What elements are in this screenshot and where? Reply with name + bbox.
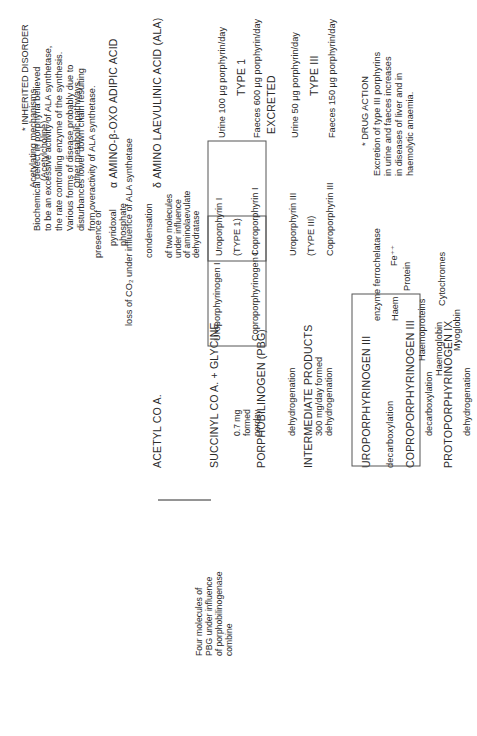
node-acetyl-coa: ACETYL CO A. [151, 394, 163, 468]
inherited-disorder-note: * INHERITED DISORDER Biochemical defect … [20, 24, 97, 231]
step-dehydrogenation: dehydrogenation [462, 368, 472, 436]
drug-line: in diseases of liver and in [394, 73, 404, 176]
node-haemoglobin: Haemoglobin [434, 322, 444, 376]
box-uroporphyrin-iii: Uroporphyrin III [288, 193, 298, 256]
node-haem: Haem [390, 296, 400, 321]
node-excreted: EXCRETED [265, 75, 277, 134]
iron-fe: Fe⁺⁺ [389, 245, 399, 266]
inherited-line: from overactivity of ALA synthetase. [87, 85, 97, 231]
node-type-3: TYPE III [308, 55, 320, 96]
condensation-detail-4: dehydratase [191, 210, 201, 258]
node-amino-oxo-adipic: α AMINO-β-OXO ADIPIC ACID [107, 38, 119, 188]
inherited-line: the rate controlling enzyme of the synth… [54, 52, 64, 231]
four-molecules-line-1: Four molecules of [194, 587, 204, 656]
box-coproporphyrin-iii: Coproporphyrin III [325, 182, 335, 256]
node-protein: Protein [402, 262, 412, 291]
drug-line: haemolytic anaemia. [405, 92, 415, 176]
dehydrogenation-b: dehydrogenation [324, 368, 334, 436]
faeces-type-3: Faeces 150 μg porphyrin/day [327, 18, 337, 138]
inherited-line: disturbances lower down chain resulting [76, 68, 86, 231]
formed-07mg-2: formed [242, 409, 252, 436]
drug-line: in urine and faeces increases [383, 56, 393, 176]
formed-07mg-3: perday [252, 409, 262, 436]
pathway-diagram: ACETYL CO A. SUCCINYL CO A. + GLYCINE PO… [0, 0, 477, 736]
node-succinyl-glycine: SUCCINYL CO A. + GLYCINE [208, 322, 220, 468]
node-type-1: TYPE 1 [235, 59, 247, 96]
node-coproporphyrinogen-i: Coproporphyrinogen I [250, 252, 260, 341]
node-haemoproteins: Haemoproteins [417, 298, 427, 361]
drug-heading: * DRUG ACTION [360, 76, 370, 146]
node-porphobilinogen: PORPHOBILINOGEN (PBG) [255, 329, 267, 468]
box-coproporphyrin-i: Coproporphyrin I [250, 188, 260, 256]
box-type-1-label: (TYPE 1) [232, 218, 242, 256]
node-myoglobin: Myoglobin [452, 309, 462, 351]
pyridoxal-label-1: pyridoxal [108, 209, 118, 246]
enzyme-ferrochelatase: enzyme ferrochelatase [372, 228, 382, 321]
node-ala: δ AMINO LAEVULINIC ACID (ALA) [151, 18, 163, 188]
four-molecules-line-4: combine [224, 623, 234, 656]
four-molecules-line-3: of porphobilinogenase [214, 571, 224, 656]
node-coproporphyrinogen-iii: COPROPORPHYRINOGEN III [404, 320, 416, 468]
drug-action-note: * DRUG ACTION Excretion of type III porp… [360, 52, 415, 176]
four-molecules-line-2: PBG under influence [204, 576, 214, 656]
formed-07mg-1: 0.7 mg [232, 410, 242, 436]
inherited-line: to be an excessive activity of ALA synth… [43, 46, 53, 231]
step-decarboxylation-1: decarboxylation [385, 401, 395, 468]
urine-type-3: Urine 50 μg porphyrin/day [290, 32, 300, 138]
box-uroporphyrin-i: Uroporphyrin I [214, 198, 224, 256]
formed-300mg: 300 mg/day formed [314, 357, 324, 436]
drug-line: Excretion of type III porphyrins [372, 52, 382, 176]
diagram-stage: ACETYL CO A. SUCCINYL CO A. + GLYCINE PO… [0, 0, 477, 736]
step-decarboxylation-2: decarboxylation [424, 372, 434, 436]
inherited-heading: * INHERITED DISORDER [20, 24, 30, 131]
box-type-3-label: (TYPE III) [306, 216, 316, 256]
loss-co2-label: loss of CO₂ under influence of ALA synth… [124, 138, 134, 326]
node-intermediate-products: INTERMEDIATE PRODUCTS [302, 325, 314, 468]
dehydrogenation-a: dehydrogenation [287, 368, 297, 436]
inherited-line: Biochemical defect in porphyria believed [32, 67, 42, 231]
urine-type-1: Urine 100 μg porphyrin/day [217, 27, 227, 138]
node-uroporphyrinogen-i: Uroporphyrinogen I [212, 262, 222, 341]
node-uroporphyrinogen-iii: UROPORPHYRINOGEN III [360, 336, 372, 468]
faeces-type-1: Faeces 600 μg porphyrin/day [252, 18, 262, 138]
condensation-label: condensation [144, 203, 154, 258]
inherited-line: Various forms of disease probably due to [65, 65, 75, 231]
node-cytochromes: Cytochromes [437, 251, 447, 306]
